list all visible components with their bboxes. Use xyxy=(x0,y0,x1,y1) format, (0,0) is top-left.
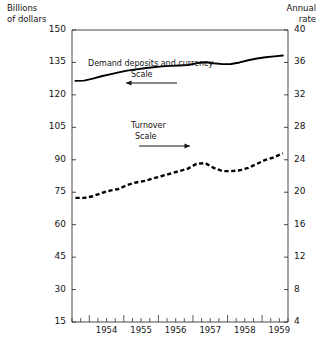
left-tick-label: 120 xyxy=(40,89,66,99)
series-label-turnover-scale: Scale xyxy=(135,132,157,141)
series-label-turnover: Turnover xyxy=(131,121,166,130)
plot-frame xyxy=(72,30,288,322)
data-series-group xyxy=(75,56,282,198)
x-tick-label: 1959 xyxy=(259,325,299,335)
plot-canvas xyxy=(0,0,320,347)
right-tick-label: 24 xyxy=(294,154,320,164)
right-tick-label: 16 xyxy=(294,219,320,229)
right-tick-label: 20 xyxy=(294,186,320,196)
left-tick-label: 45 xyxy=(40,251,66,261)
left-tick-label: 30 xyxy=(40,284,66,294)
axis-ticks xyxy=(72,30,288,322)
left-arrow-icon-head xyxy=(126,80,132,85)
left-tick-label: 60 xyxy=(40,219,66,229)
left-axis-title: Billionsof dollars xyxy=(7,3,46,24)
left-axis-title-line1: Billions xyxy=(7,3,37,13)
series-label-demand-deposits: Demand deposits and currency xyxy=(88,59,213,68)
left-tick-label: 135 xyxy=(40,56,66,66)
series-line-2 xyxy=(75,153,282,198)
right-axis-title-line1: Annual xyxy=(286,3,316,13)
left-tick-label: 105 xyxy=(40,121,66,131)
right-tick-label: 12 xyxy=(294,251,320,261)
right-tick-label: 40 xyxy=(294,24,320,34)
left-tick-label: 15 xyxy=(40,316,66,326)
left-tick-label: 75 xyxy=(40,186,66,196)
left-tick-label: 150 xyxy=(40,24,66,34)
chart-figure: Billionsof dollars Annualrate 1501351201… xyxy=(0,0,320,347)
right-arrow-icon-head xyxy=(185,143,191,148)
right-tick-label: 36 xyxy=(294,56,320,66)
right-tick-label: 28 xyxy=(294,121,320,131)
right-tick-label: 8 xyxy=(294,284,320,294)
series-label-demand-deposits-scale: Scale xyxy=(131,70,153,79)
right-axis-title-line2: rate xyxy=(299,14,316,24)
left-axis-title-line2: of dollars xyxy=(7,14,46,24)
left-tick-label: 90 xyxy=(40,154,66,164)
right-axis-title: Annualrate xyxy=(286,3,316,24)
right-tick-label: 32 xyxy=(294,89,320,99)
